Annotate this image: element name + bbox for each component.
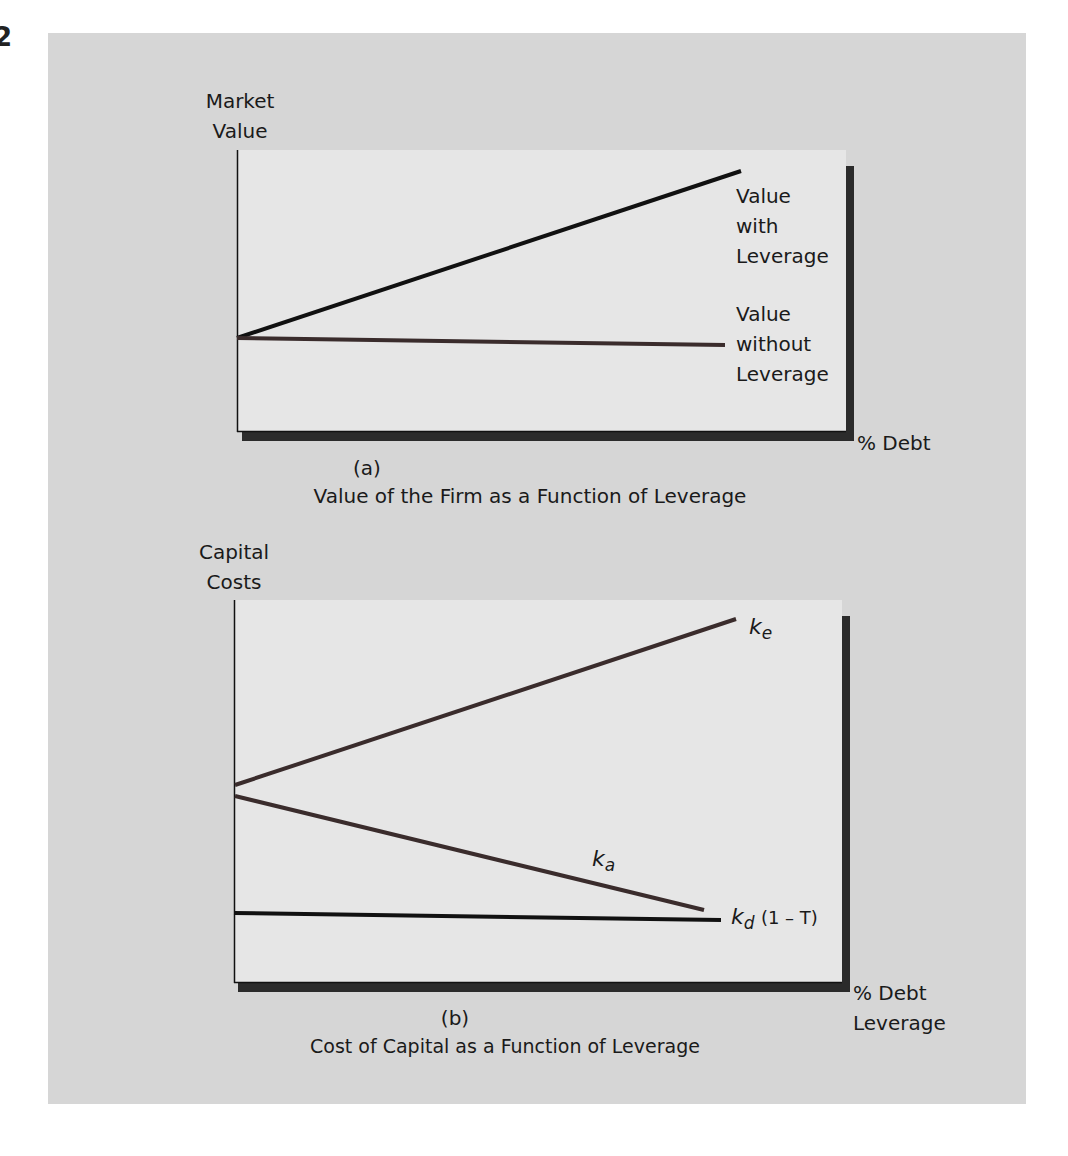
chart-b-x-label: % Debt Leverage (853, 978, 946, 1038)
legend-value-with-leverage: Value with Leverage (736, 181, 829, 271)
chart-a-panel-label: (a) (237, 453, 497, 483)
chart-b (234, 600, 850, 992)
chart-b-title: Cost of Capital as a Function of Leverag… (250, 1031, 760, 1061)
chart-a-shadow-bottom (242, 432, 854, 441)
chart-a-x-label: % Debt (857, 428, 931, 458)
legend-ke: ke (749, 612, 772, 643)
legend-kd-1-minus-t: kd (1 – T) (731, 902, 818, 933)
chart-b-shadow-bottom (238, 983, 850, 992)
chart-a-shadow-right (846, 166, 854, 441)
chart-a-y-label: Market Value (190, 86, 290, 146)
chart-a-title: Value of the Firm as a Function of Lever… (255, 481, 805, 511)
chart-b-panel-label: (b) (405, 1003, 505, 1033)
legend-value-without-leverage: Value without Leverage (736, 299, 829, 389)
legend-ka: ka (592, 844, 615, 875)
chart-b-y-label: Capital Costs (184, 537, 284, 597)
chart-b-shadow-right (842, 616, 850, 992)
